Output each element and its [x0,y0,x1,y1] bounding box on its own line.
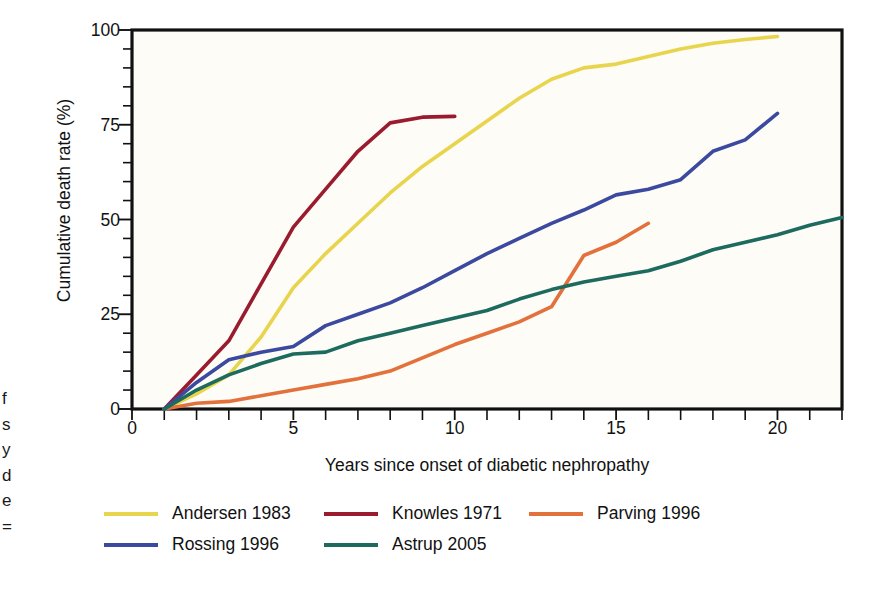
legend-row: Andersen 1983Knowles 1971Parving 1996 [104,498,844,529]
legend-label: Astrup 2005 [392,534,486,555]
legend-swatch-icon [324,543,378,547]
legend-item-andersen-1983[interactable]: Andersen 1983 [104,503,324,524]
line-chart: Cumulative death rate (%) 0255075100 051… [0,0,872,595]
chart-legend: Andersen 1983Knowles 1971Parving 1996Ros… [104,498,844,560]
legend-swatch-icon [529,512,583,516]
legend-item-astrup-2005[interactable]: Astrup 2005 [324,534,529,555]
legend-swatch-icon [104,543,158,547]
legend-item-rossing-1996[interactable]: Rossing 1996 [104,534,324,555]
legend-label: Rossing 1996 [172,534,279,555]
legend-swatch-icon [324,512,378,516]
legend-swatch-icon [104,512,158,516]
figure-root: f s y d e = Cumulative death rate (%) 02… [0,0,872,595]
legend-label: Andersen 1983 [172,503,291,524]
legend-item-parving-1996[interactable]: Parving 1996 [529,503,739,524]
legend-item-knowles-1971[interactable]: Knowles 1971 [324,503,529,524]
plot-area [0,0,872,480]
legend-row: Rossing 1996Astrup 2005 [104,529,844,560]
plot-background [132,30,842,409]
legend-label: Parving 1996 [597,503,700,524]
legend-label: Knowles 1971 [392,503,502,524]
